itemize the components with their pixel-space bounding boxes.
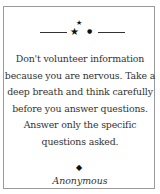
stars-ornament-icon: ★ ★ ● xyxy=(4,7,156,43)
ornament-line-left xyxy=(40,32,67,33)
quote-line: deep breath and think carefully xyxy=(4,84,156,101)
quote-line: questions asked. xyxy=(4,134,156,151)
diamond-icon: ◆ xyxy=(76,164,82,172)
quote-author: Anonymous xyxy=(4,175,156,186)
star-icon: ● xyxy=(87,28,92,34)
quote-text: Don't volunteer information because you … xyxy=(4,51,156,150)
quote-line: Answer only the specific xyxy=(4,117,156,134)
quote-card: ★ ★ ● Don't volunteer information becaus… xyxy=(3,6,155,189)
quote-line: because you are nervous. Take a xyxy=(4,68,156,85)
star-icon: ★ xyxy=(70,27,79,37)
quote-line: Don't volunteer information xyxy=(4,51,156,68)
ornament-line-right xyxy=(98,32,125,33)
quote-line: before you answer questions. xyxy=(4,101,156,118)
